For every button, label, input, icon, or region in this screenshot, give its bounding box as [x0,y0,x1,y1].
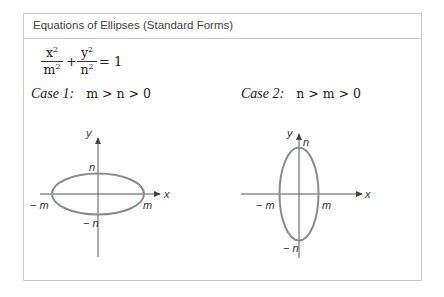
case-1-diagram: y x n − n − m m [30,127,170,257]
case-2-y-label: y [286,127,294,139]
case-2-m-label: m [322,199,331,211]
ellipse-diagrams: y x n − n − m m y x n − n − m m [0,0,444,297]
case-2-diagram: y x n − n − m m [241,127,371,258]
case-1-y-label: y [85,127,93,139]
case-1-n-label: n [89,161,95,173]
case-2-neg-n-label: − n [283,242,299,254]
case-2-x-label: x [364,188,371,200]
case-1-neg-n-label: − n [83,217,99,229]
case-2-neg-m-label: − m [256,199,275,211]
case-1-neg-m-label: − m [30,199,49,211]
case-1-x-label: x [163,188,170,200]
case-2-n-label: n [303,136,309,148]
case-1-m-label: m [143,199,152,211]
